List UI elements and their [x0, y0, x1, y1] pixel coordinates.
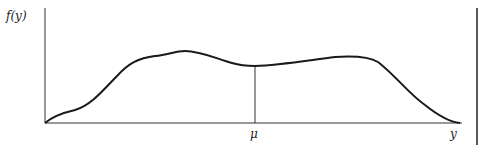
density-plot [0, 0, 487, 148]
x-axis-label: y [450, 128, 457, 140]
mean-label: μ [250, 128, 258, 140]
y-axis-label: f(y) [6, 10, 27, 22]
density-curve [45, 51, 460, 123]
